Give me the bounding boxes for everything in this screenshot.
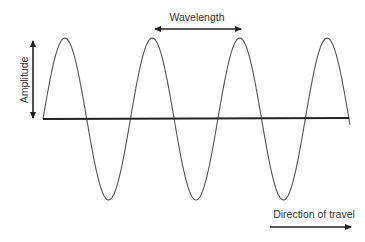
wavelength-label: Wavelength (169, 11, 224, 23)
amplitude-label: Amplitude (18, 57, 30, 104)
wave-diagram: Amplitude Wavelength Direction of travel (0, 0, 365, 242)
equilibrium-axis (43, 118, 349, 119)
direction-label: Direction of travel (273, 208, 355, 220)
